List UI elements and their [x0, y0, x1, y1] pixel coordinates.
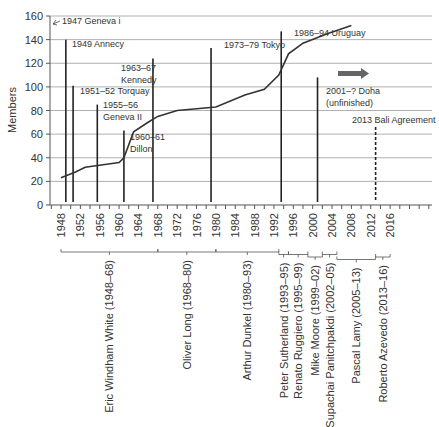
x-tick-label: 1968 — [152, 213, 164, 237]
dg-name-label: Roberto Azevedo (2013–16) — [377, 265, 389, 403]
x-tick-label: 1976 — [191, 213, 203, 237]
round-label: 1951–52 Torquay — [80, 86, 150, 96]
x-tick-label: 1984 — [229, 213, 241, 237]
y-tick-label: 120 — [25, 57, 43, 69]
x-tick-label: 2008 — [345, 213, 357, 237]
dg-name-label: Renato Ruggiero (1995–99) — [292, 263, 304, 399]
x-tick-label: 1964 — [132, 213, 144, 237]
y-tick-label: 140 — [25, 34, 43, 46]
annotations: 1947 Geneva i1949 Annecy1951–52 Torquay1… — [53, 16, 436, 154]
chart-canvas: 020406080100120140160 194819521956196019… — [0, 0, 439, 427]
dg-name-label: Mike Moore (1999–02) — [309, 265, 321, 376]
x-tick-label: 1980 — [210, 213, 222, 237]
x-tick-label: 1992 — [268, 213, 280, 237]
y-tick-label: 160 — [25, 10, 43, 22]
y-tick-label: 40 — [31, 152, 43, 164]
x-tick-label: 2012 — [365, 213, 377, 237]
round-label: 1949 Annecy — [72, 39, 125, 49]
round-label: 1963–67Kennedy — [121, 63, 157, 85]
x-tick-label: 1952 — [74, 213, 86, 237]
x-tick-label: 2016 — [384, 213, 396, 237]
round-label: 1947 Geneva i — [62, 16, 121, 26]
x-tick-label: 1996 — [287, 213, 299, 237]
dg-name-label: Supachai Panitchpakdi (2002–05) — [324, 263, 336, 427]
x-tick-label: 1988 — [249, 213, 261, 237]
round-label: 1960–61Dillon — [130, 132, 165, 154]
dg-name-label: Eric Windham White (1948–68) — [103, 260, 115, 413]
wto-membership-chart: 020406080100120140160 194819521956196019… — [0, 0, 439, 427]
x-axis: 1948195219561960196419681972197619801984… — [50, 205, 432, 237]
x-tick-label: 1960 — [113, 213, 125, 237]
round-label: 1973–79 Tokyo — [224, 40, 285, 50]
doha-arrow-icon — [338, 68, 369, 79]
round-label: 2001–? Doha(unfinished) — [326, 86, 380, 108]
y-axis-label: Members — [6, 87, 18, 133]
dg-name-label: Pascal Lamy (2005–13) — [350, 268, 362, 384]
dg-name-label: Arthur Dunkel (1980–93) — [241, 260, 253, 380]
y-axis: 020406080100120140160 — [25, 10, 50, 211]
y-tick-label: 80 — [31, 105, 43, 117]
directors-general-timeline: Eric Windham White (1948–68)Oliver Long … — [61, 249, 390, 427]
round-label: 2013 Bali Agreement — [352, 115, 436, 125]
y-tick-label: 60 — [31, 128, 43, 140]
dg-name-label: Oliver Long (1968–80) — [181, 260, 193, 369]
x-tick-label: 2004 — [326, 213, 338, 237]
x-tick-label: 1972 — [171, 213, 183, 237]
y-tick-label: 0 — [37, 199, 43, 211]
x-tick-label: 1948 — [55, 213, 67, 237]
x-tick-label: 1956 — [94, 213, 106, 237]
dg-name-label: Peter Sutherland (1993–95) — [278, 263, 290, 399]
x-tick-label: 2000 — [307, 213, 319, 237]
y-tick-label: 100 — [25, 81, 43, 93]
y-tick-label: 20 — [31, 175, 43, 187]
round-label: 1986–94 Uruguay — [294, 28, 366, 38]
